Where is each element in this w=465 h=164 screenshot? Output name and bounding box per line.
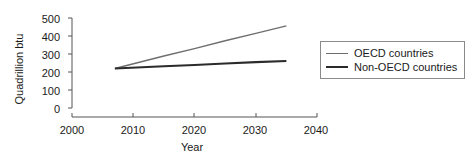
plot-area xyxy=(0,0,465,164)
y-axis xyxy=(68,18,72,108)
x-axis xyxy=(72,113,317,117)
legend: OECD countries Non-OECD countries xyxy=(320,41,465,79)
legend-label: OECD countries xyxy=(354,47,433,60)
legend-line-swatch-icon xyxy=(326,66,348,68)
legend-item-non-oecd: Non-OECD countries xyxy=(326,60,457,74)
legend-item-oecd: OECD countries xyxy=(326,46,457,60)
legend-line-swatch-icon xyxy=(326,53,348,54)
line-chart: Quadrillion btu Year 500 400 300 200 100… xyxy=(0,0,465,164)
legend-label: Non-OECD countries xyxy=(354,61,457,74)
